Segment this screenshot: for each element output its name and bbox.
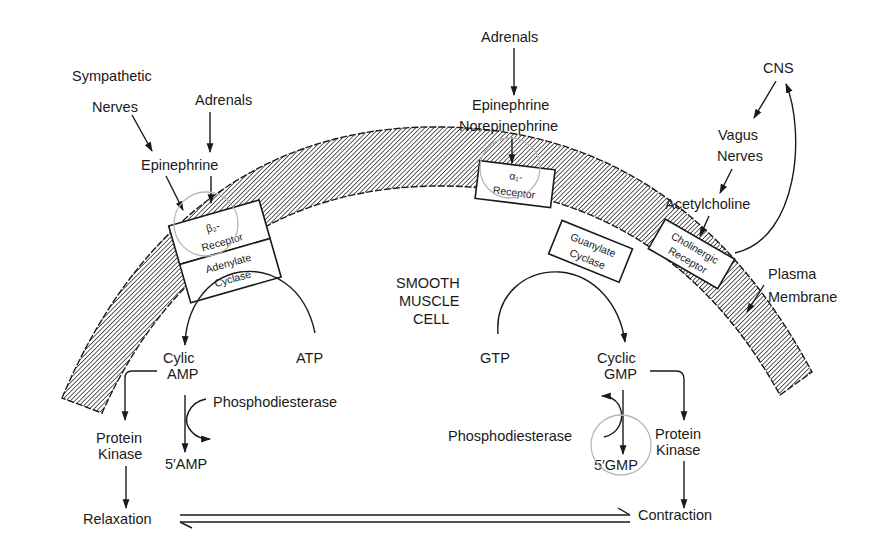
epinephrine-left-label: Epinephrine [141, 157, 218, 173]
arrow-nerves-to-epinephrine [132, 115, 152, 151]
5gmp-label: 5′GMP [594, 457, 638, 473]
phosphodiesterase-left-label: Phosphodiesterase [213, 394, 337, 410]
kinase-left-label-1: Protein [96, 430, 142, 446]
membrane-label: Membrane [768, 289, 837, 305]
arc-gtp-to-cgmp [498, 272, 625, 342]
cell-label-2: MUSCLE [399, 293, 460, 309]
sympathetic-label: Sympathetic [72, 68, 152, 84]
alpha1-symbol: α₁- [509, 169, 524, 183]
cns-label: CNS [763, 60, 794, 76]
phosphodiesterase-left-arc [187, 399, 210, 439]
plasma-label: Plasma [768, 266, 817, 282]
arrow-vagus-to-acetylcholine [720, 169, 732, 193]
adrenals-left-label: Adrenals [195, 92, 252, 108]
norepinephrine-label: Norepinephrine [459, 118, 558, 134]
vagus-label: Vagus [718, 127, 758, 143]
forward-barb [618, 508, 630, 515]
kinase-left-label-2: Kinase [98, 446, 142, 462]
vagus-nerves-label: Nerves [717, 148, 763, 164]
atp-label: ATP [296, 350, 323, 366]
epinephrine-middle-label: Epinephrine [472, 97, 549, 113]
alpha1-receptor-box-group: α₁- Receptor [475, 161, 555, 208]
alpha1-receptor-box [475, 161, 555, 208]
cell-label-3: CELL [413, 311, 449, 327]
kinase-right-label-2: Kinase [656, 442, 700, 458]
arrow-camp-to-kinase [125, 371, 157, 420]
beta2-receptor-complex: β₂- Receptor Adenylate Cyclase [169, 200, 281, 303]
arrow-cns-to-vagus [754, 81, 776, 118]
arrow-cgmp-to-kinase [650, 371, 684, 420]
camp-label-1: Cylic [163, 350, 194, 366]
gtp-label: GTP [480, 350, 510, 366]
nerves-label: Nerves [92, 99, 138, 115]
cell-label-1: SMOOTH [396, 275, 460, 291]
phosphodiesterase-right-label: Phosphodiesterase [448, 428, 572, 444]
kinase-right-label-1: Protein [655, 426, 701, 442]
cgmp-label-2: GMP [604, 366, 637, 382]
relaxation-label: Relaxation [83, 511, 152, 527]
acetylcholine-label: Acetylcholine [665, 196, 750, 212]
adrenals-middle-label: Adrenals [481, 29, 538, 45]
reverse-barb [180, 522, 192, 528]
camp-label-2: AMP [167, 366, 198, 382]
feedback-arc-to-cns [735, 84, 796, 253]
contraction-label: Contraction [638, 507, 712, 523]
smooth-muscle-signaling-diagram: Sympathetic Nerves Adrenals Epinephrine … [0, 0, 869, 545]
cgmp-label-1: Cyclic [597, 350, 636, 366]
5amp-label: 5′AMP [165, 456, 207, 472]
equilibrium-arrows [180, 508, 630, 528]
